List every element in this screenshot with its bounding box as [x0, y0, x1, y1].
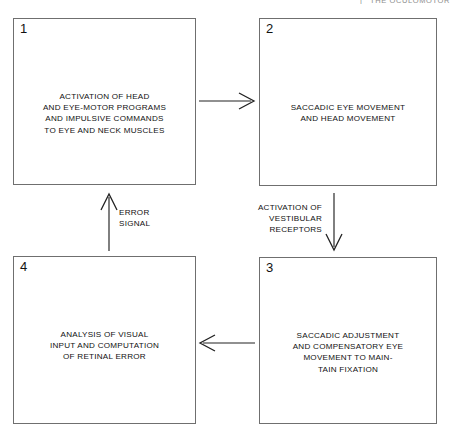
box-3-text: SACCADIC ADJUSTMENT AND COMPENSATORY EYE… [260, 330, 436, 375]
box-4-number: 4 [20, 260, 27, 273]
arrow-box4-to-box1-icon [99, 193, 119, 251]
box-2-text: SACCADIC EYE MOVEMENT AND HEAD MOVEMENT [260, 102, 436, 124]
edge-label-vestibular-receptors: ACTIVATION OF VESTIBULAR RECEPTORS [237, 202, 322, 236]
flowchart-box-4: 4 ANALYSIS OF VISUAL INPUT AND COMPUTATI… [13, 256, 196, 424]
page-header-separator: | [360, 0, 363, 4]
box-4-text: ANALYSIS OF VISUAL INPUT AND COMPUTATION… [14, 329, 195, 363]
arrow-box2-to-box3-icon [324, 193, 344, 251]
page-running-header: | THE OCULOMOTOR [285, 0, 450, 4]
flowchart-box-1: 1 ACTIVATION OF HEAD AND EYE-MOTOR PROGR… [13, 18, 196, 185]
arrow-box3-to-box4-icon [199, 334, 255, 352]
page-header-right-fragment: THE OCULOMOTOR [370, 0, 450, 4]
flowchart-box-2: 2 SACCADIC EYE MOVEMENT AND HEAD MOVEMEN… [259, 18, 437, 186]
box-2-number: 2 [266, 22, 273, 35]
box-1-number: 1 [20, 22, 27, 35]
edge-label-error-signal: ERROR SIGNAL [119, 207, 150, 229]
box-3-number: 3 [266, 261, 273, 274]
arrow-box1-to-box2-icon [199, 92, 255, 110]
box-1-text: ACTIVATION OF HEAD AND EYE-MOTOR PROGRAM… [14, 91, 195, 136]
flowchart-box-3: 3 SACCADIC ADJUSTMENT AND COMPENSATORY E… [259, 257, 437, 424]
